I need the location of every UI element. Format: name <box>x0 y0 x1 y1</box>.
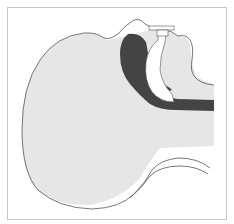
airway-flange <box>149 26 174 30</box>
head-airway-diagram <box>0 0 234 224</box>
airway-bite-block <box>157 30 168 36</box>
medical-illustration <box>0 0 234 224</box>
